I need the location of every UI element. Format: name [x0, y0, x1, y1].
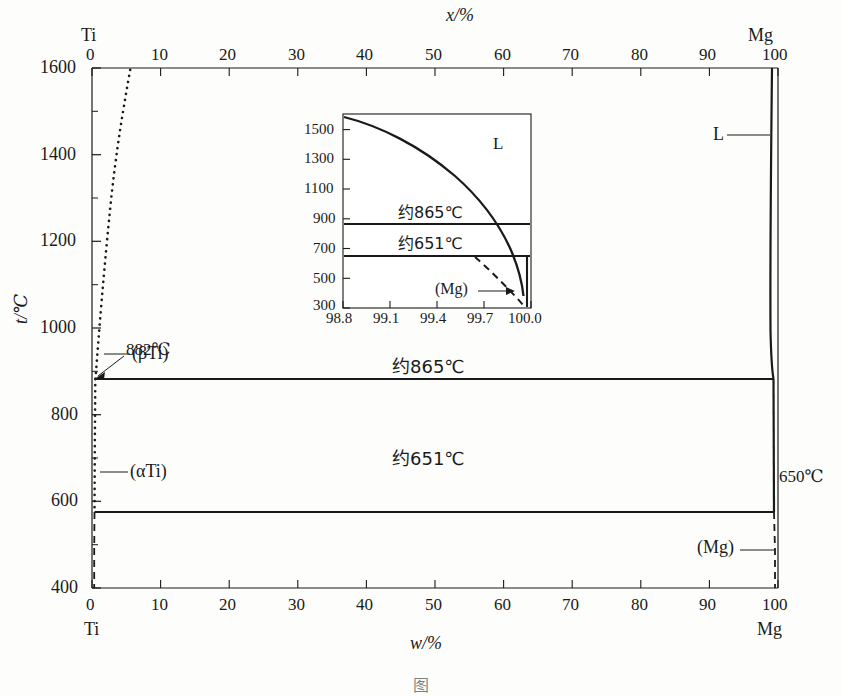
top-tick-label-90: 90 [699, 46, 716, 63]
bottom-tick-label-60: 60 [494, 596, 511, 613]
inset-y-tick-label-500: 500 [313, 271, 336, 286]
inset-annotation-about-651c: 约651℃ [398, 236, 463, 252]
inset-y-tick-label-1500: 1500 [304, 122, 334, 137]
top-tick-label-70: 70 [562, 46, 579, 63]
y-tick-label-800: 800 [51, 405, 78, 423]
inset-annotation-about-865c: 约865℃ [398, 205, 463, 221]
inset-y-tick-label-900: 900 [313, 211, 336, 226]
inset-x-tick-label-100-0: 100.0 [508, 311, 542, 326]
top-axis-ticks [92, 68, 778, 76]
y-tick-label-1200: 1200 [40, 231, 76, 249]
mg-liquidus-lower-segment [774, 379, 775, 512]
alpha-ti-solvus-curve [95, 379, 96, 512]
top-axis-label: x/% [446, 6, 474, 24]
figure-caption: 图 [0, 672, 842, 696]
bottom-tick-label-90: 90 [699, 596, 716, 613]
y-tick-label-1600: 1600 [40, 58, 76, 76]
inset-x-tick-label-99-1: 99.1 [373, 311, 399, 326]
mg-solvus-dashed [774, 512, 775, 588]
y-tick-label-1000: 1000 [40, 318, 76, 336]
top-tick-label-40: 40 [356, 46, 373, 63]
inset-y-tick-label-700: 700 [313, 241, 336, 256]
annotation-mg-phase: (Mg) [697, 538, 734, 556]
y-tick-label-400: 400 [51, 578, 78, 596]
beta-ti-solvus-curve [96, 68, 131, 379]
top-tick-label-0: 0 [86, 46, 95, 63]
inset-annotation-L: L [493, 135, 503, 152]
top-tick-label-100: 100 [762, 46, 788, 63]
inset-x-tick-label-98-8: 98.8 [326, 311, 352, 326]
bottom-tick-label-100: 100 [762, 596, 788, 613]
top-tick-label-50: 50 [425, 46, 442, 63]
inset-x-tick-label-99-7: 99.7 [467, 311, 493, 326]
bottom-tick-label-10: 10 [151, 596, 168, 613]
bottom-tick-label-0: 0 [86, 596, 95, 613]
bottom-tick-label-20: 20 [219, 596, 236, 613]
top-tick-label-60: 60 [494, 46, 511, 63]
y-axis-major-ticks [92, 68, 101, 588]
y-tick-label-1400: 1400 [40, 145, 76, 163]
top-tick-label-20: 20 [219, 46, 236, 63]
y-tick-label-600: 600 [51, 491, 78, 509]
bottom-tick-label-80: 80 [631, 596, 648, 613]
top-tick-label-80: 80 [631, 46, 648, 63]
top-axis-left-endlabel: Ti [81, 26, 96, 44]
inset-y-tick-label-1300: 1300 [304, 151, 334, 166]
mg-liquidus-curve [770, 68, 773, 379]
bottom-axis-left-endlabel: Ti [84, 620, 99, 638]
annotation-alpha-ti: (αTi) [130, 462, 167, 480]
top-axis-right-endlabel: Mg [748, 26, 773, 44]
bottom-tick-label-30: 30 [288, 596, 305, 613]
bottom-axis-ticks [92, 580, 778, 588]
annotation-liquid-L: L [713, 125, 724, 143]
annotation-650c: 650℃ [779, 468, 824, 485]
annotation-about-651c: 约651℃ [392, 450, 465, 468]
annotation-882c: 882℃ [126, 341, 171, 358]
top-tick-label-30: 30 [288, 46, 305, 63]
annotation-about-865c: 约865℃ [392, 358, 465, 376]
top-tick-label-10: 10 [151, 46, 168, 63]
bottom-axis-right-endlabel: Mg [757, 620, 782, 638]
y-axis-label: t/℃ [12, 294, 30, 324]
bottom-tick-label-70: 70 [562, 596, 579, 613]
inset-x-tick-label-99-4: 99.4 [420, 311, 446, 326]
bottom-tick-label-50: 50 [425, 596, 442, 613]
inset-annotation-mg-phase: (Mg) [435, 281, 468, 297]
bottom-tick-label-40: 40 [356, 596, 373, 613]
inset-y-tick-label-1100: 1100 [304, 181, 333, 196]
bottom-axis-label: w/% [410, 634, 442, 652]
